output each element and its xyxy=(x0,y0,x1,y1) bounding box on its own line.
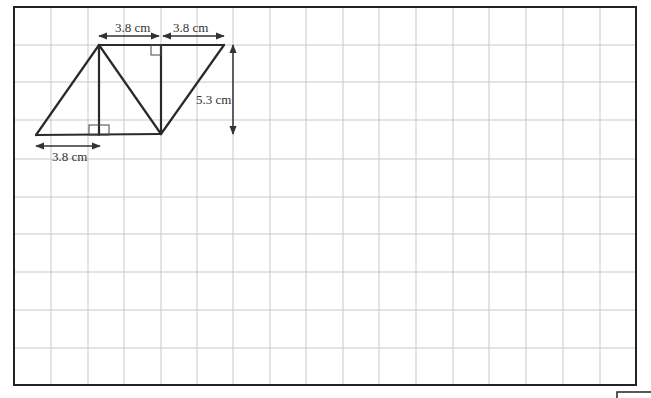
right-angle-mark-top xyxy=(151,45,161,55)
label-top-left-width: 3.8 cm xyxy=(115,20,150,35)
label-bottom-width: 3.8 cm xyxy=(52,149,87,164)
label-top-right-width: 3.8 cm xyxy=(173,20,208,35)
corner-bracket xyxy=(617,392,651,398)
label-height: 5.3 cm xyxy=(196,92,231,107)
diagram-canvas: 3.8 cm 3.8 cm 5.3 cm 3.8 cm xyxy=(0,0,651,398)
left-slant-edge xyxy=(36,45,99,135)
grid-border xyxy=(14,7,636,385)
parallelogram-figure xyxy=(36,45,224,135)
right-slant-edge xyxy=(161,45,224,134)
diagonal xyxy=(99,45,161,134)
grid xyxy=(14,7,636,385)
